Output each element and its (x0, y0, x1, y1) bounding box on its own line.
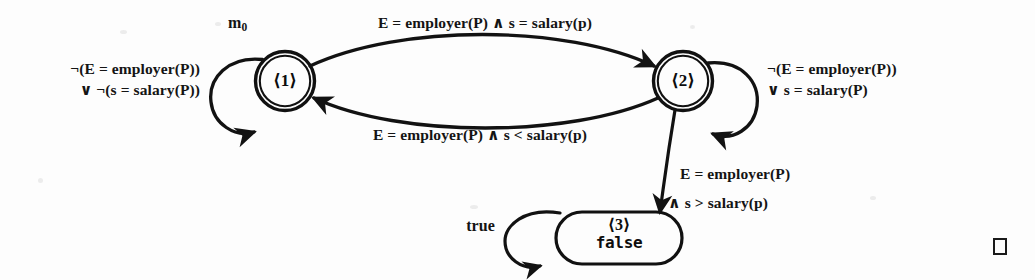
transition-s2-to-s3-label: E = employer(P) ∧ s > salary(p) (680, 163, 930, 214)
transition-s3-self-label: true (390, 215, 495, 237)
transition-s2-to-s3-label-line2: ∧ s > salary(p) (668, 192, 930, 213)
initial-state-marker: m0 (228, 12, 247, 34)
transition-s2-self-label: ¬(E = employer(P)) ∨ s = salary(P) (767, 58, 1007, 101)
transition-s1-self-label: ¬(E = employer(P)) ∨ ¬(s = salary(P)) (0, 58, 200, 101)
transition-s1-to-s2-arrow (310, 35, 654, 67)
state-3-content: ⟨3⟩ false (556, 217, 682, 251)
transition-s2-self-label-line1: ¬(E = employer(P)) (767, 58, 1007, 79)
state-3-label: ⟨3⟩ (556, 217, 682, 234)
qed-square-icon (993, 238, 1007, 255)
transition-s3-self-arrow (505, 212, 560, 267)
transition-s2-self-arrow (708, 63, 757, 137)
state-3-value: false (556, 234, 682, 252)
transition-s2-to-s1-label: E = employer(P) ∧ s < salary(p) (300, 124, 660, 145)
state-diagram-figure: ⟨1⟩ ⟨2⟩ ⟨3⟩ false m0 ¬(E = employer(P)) … (0, 0, 1035, 280)
state-1-label: ⟨1⟩ (255, 70, 315, 91)
transition-s1-to-s2-label: E = employer(P) ∧ s = salary(p) (310, 12, 660, 33)
transition-s1-self-label-line2: ∨ ¬(s = salary(P)) (0, 79, 200, 100)
transition-s2-self-label-line2: ∨ s = salary(P) (767, 79, 1007, 100)
transition-s2-to-s3-label-line1: E = employer(P) (680, 163, 930, 184)
transition-s1-self-label-line1: ¬(E = employer(P)) (0, 58, 200, 79)
initial-state-marker-subscript: 0 (241, 21, 247, 33)
initial-state-marker-letter: m (228, 14, 241, 31)
state-2-label: ⟨2⟩ (653, 70, 713, 91)
